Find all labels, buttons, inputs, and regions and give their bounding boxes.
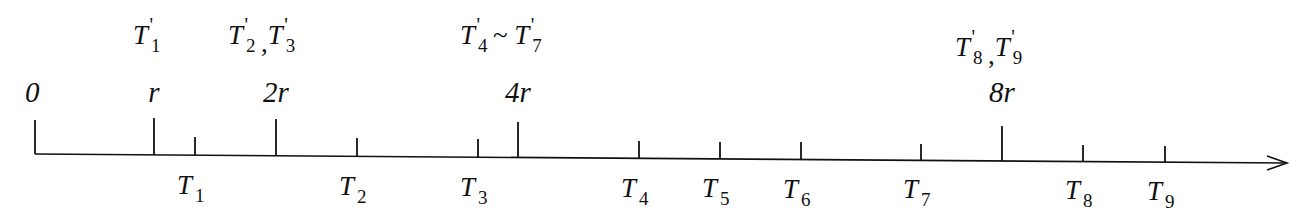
mark-label: 4r	[505, 78, 531, 107]
tick-label-subscript: 8	[1083, 190, 1093, 211]
tick-label-name: T	[702, 173, 717, 203]
separator: ~	[486, 20, 514, 50]
tick-label-name: T	[177, 170, 192, 200]
prime-group-label: T1'	[133, 22, 159, 49]
prime-mark: '	[1011, 26, 1015, 48]
tick-label-name: T	[460, 172, 475, 202]
prime-mark: '	[972, 26, 976, 48]
prime-group-label: T8' ,T9'	[955, 34, 1021, 61]
tick-label-subscript: 3	[478, 187, 488, 208]
tick-label: T5	[702, 175, 730, 202]
tick-label: T2	[339, 173, 367, 200]
tick-label: T9	[1147, 178, 1175, 205]
tick-label: T8	[1065, 177, 1093, 204]
mark-label: 2r	[263, 78, 289, 107]
tick-label-subscript: 9	[1165, 191, 1175, 212]
prime-mark: '	[150, 14, 154, 36]
tick-label-name: T	[1065, 175, 1080, 205]
prime-label-subscript: 3	[286, 35, 296, 56]
prime-mark: '	[245, 14, 249, 36]
tick-label-subscript: 4	[639, 188, 649, 209]
prime-mark: '	[284, 14, 288, 36]
tick-label-subscript: 6	[801, 189, 811, 210]
timeline-diagram: 0r2r4r8rT1T2T3T4T5T6T7T8T9T1'T2' ,T3'T4'…	[0, 0, 1311, 224]
prime-label-name: T	[133, 20, 148, 50]
tick-label-name: T	[339, 171, 354, 201]
separator: ,	[254, 28, 268, 58]
tick-label-name: T	[621, 173, 636, 203]
mark-label: 0	[25, 78, 40, 107]
mark-label: 8r	[989, 78, 1015, 107]
prime-mark: '	[477, 14, 481, 36]
tick-label-subscript: 7	[921, 189, 931, 210]
prime-label-subscript: 7	[532, 35, 542, 56]
tick-label: T6	[783, 176, 811, 203]
tick-label-name: T	[1147, 176, 1162, 206]
prime-label-subscript: 1	[151, 35, 161, 56]
tick-label: T1	[177, 172, 205, 199]
prime-label-name: T	[228, 20, 243, 50]
prime-label-subscript: 9	[1013, 47, 1023, 68]
prime-label-name: T	[268, 20, 283, 50]
separator: ,	[981, 40, 995, 70]
prime-mark: '	[531, 14, 535, 36]
prime-label-name: T	[460, 20, 475, 50]
tick-label-subscript: 5	[720, 188, 730, 209]
axis-line	[35, 154, 1287, 163]
tick-label: T3	[460, 174, 488, 201]
tick-label-name: T	[783, 174, 798, 204]
tick-label-name: T	[903, 174, 918, 204]
prime-label-name: T	[955, 32, 970, 62]
prime-label-subscript: 4	[478, 35, 488, 56]
tick-label: T7	[903, 176, 931, 203]
prime-group-label: T4' ~ T7'	[460, 22, 540, 49]
prime-group-label: T2' ,T3'	[228, 22, 294, 49]
mark-label: r	[148, 78, 159, 107]
tick-label-subscript: 2	[357, 186, 367, 207]
tick-label: T4	[621, 175, 649, 202]
prime-label-name: T	[514, 20, 529, 50]
tick-label-subscript: 1	[195, 185, 205, 206]
prime-label-name: T	[995, 32, 1010, 62]
